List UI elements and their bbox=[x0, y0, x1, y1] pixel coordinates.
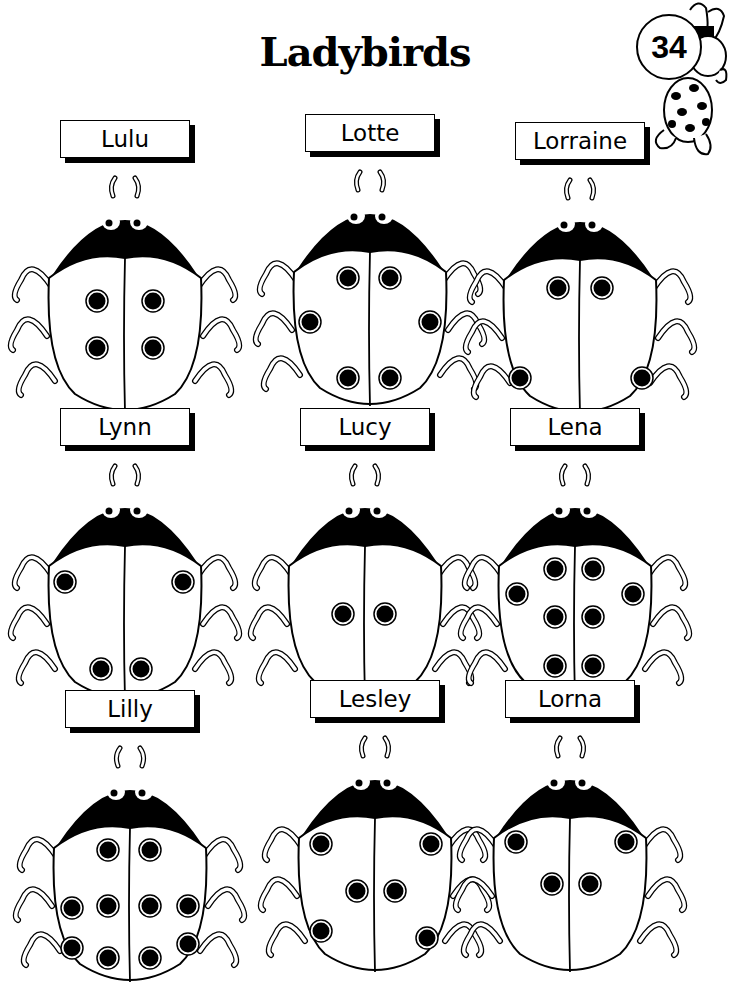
ladybird-card: Lilly bbox=[10, 690, 250, 980]
ladybird-icon bbox=[5, 166, 245, 416]
ladybird-card: Lulu bbox=[5, 120, 245, 410]
ladybird-name-label: Lilly bbox=[65, 690, 195, 728]
ladybird-icon bbox=[460, 168, 700, 418]
ladybird-card: Lotte bbox=[250, 114, 490, 404]
ladybird-name-label: Lena bbox=[510, 408, 640, 446]
ladybird-icon bbox=[450, 726, 690, 976]
ladybird-name-label: Lulu bbox=[60, 120, 190, 158]
ladybird-icon bbox=[10, 736, 250, 986]
ladybird-name-label: Lucy bbox=[300, 408, 430, 446]
ladybird-icon bbox=[5, 454, 245, 704]
ladybird-icon bbox=[250, 160, 490, 410]
ladybird-card: Lynn bbox=[5, 408, 245, 698]
ladybird-icon bbox=[455, 454, 695, 704]
ladybird-name-label: Lesley bbox=[310, 680, 440, 718]
ladybird-card: Lena bbox=[455, 408, 695, 698]
ladybird-card: Lorna bbox=[450, 680, 690, 970]
ladybird-name-label: Lynn bbox=[60, 408, 190, 446]
ladybird-card: Lucy bbox=[245, 408, 485, 698]
ladybird-card: Lorraine bbox=[460, 122, 700, 412]
ladybird-name-label: Lorraine bbox=[515, 122, 645, 160]
ladybird-icon bbox=[245, 454, 485, 704]
page-number-badge: 34 bbox=[636, 14, 702, 80]
ladybird-name-label: Lotte bbox=[305, 114, 435, 152]
ladybird-name-label: Lorna bbox=[505, 680, 635, 718]
